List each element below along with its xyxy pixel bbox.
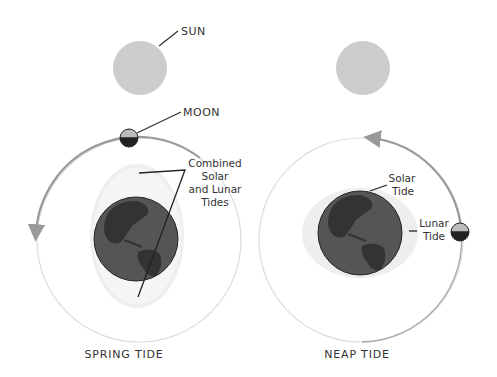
moon-left bbox=[120, 129, 138, 147]
solar-tide-label-2: Tide bbox=[391, 185, 414, 197]
combined-label-4: Tides bbox=[200, 196, 229, 208]
combined-label-3: and Lunar bbox=[189, 183, 243, 195]
neap-tide-panel: Solar Tide Lunar Tide NEAP TIDE bbox=[259, 41, 469, 361]
lunar-tide-label-2: Tide bbox=[422, 230, 445, 242]
spring-tide-caption: SPRING TIDE bbox=[85, 348, 164, 361]
earth-left bbox=[94, 197, 178, 281]
sun-right bbox=[336, 41, 390, 95]
moon-label: MOON bbox=[183, 106, 220, 119]
tides-diagram: SUN MOON Combined Solar and Lunar Tides … bbox=[0, 0, 497, 377]
sun-leader-line bbox=[159, 31, 178, 46]
moon-right bbox=[451, 223, 469, 241]
moon-leader-line bbox=[137, 112, 181, 133]
combined-label-2: Solar bbox=[202, 170, 229, 182]
earth-right bbox=[318, 191, 402, 275]
sun-label: SUN bbox=[181, 25, 206, 38]
neap-tide-caption: NEAP TIDE bbox=[324, 348, 389, 361]
combined-label-1: Combined bbox=[188, 157, 241, 169]
spring-tide-panel: SUN MOON Combined Solar and Lunar Tides … bbox=[36, 25, 242, 361]
solar-tide-label-1: Solar bbox=[389, 172, 416, 184]
solar-tide-leader bbox=[370, 185, 387, 191]
sun-left bbox=[113, 41, 167, 95]
lunar-tide-label-1: Lunar bbox=[419, 217, 449, 229]
